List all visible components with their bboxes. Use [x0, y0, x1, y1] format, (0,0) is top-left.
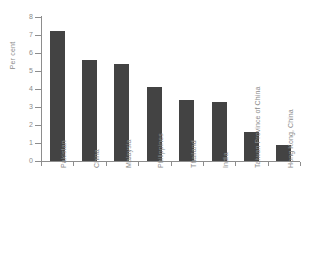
x-tick-mark [171, 162, 172, 166]
x-tick-mark [235, 162, 236, 166]
y-tick-label: 7 [20, 31, 33, 38]
x-tick-label: India [222, 152, 229, 168]
x-tick-mark [106, 162, 107, 166]
x-tick-mark [300, 162, 301, 166]
x-tick-label: Malaysia [125, 140, 132, 168]
y-axis-line [41, 16, 42, 162]
y-tick-label: 5 [20, 67, 33, 74]
y-tick-label: 1 [20, 139, 33, 146]
y-axis-title: Per cent [9, 21, 16, 91]
y-tick-label: 3 [20, 103, 33, 110]
x-tick-mark [138, 162, 139, 166]
y-tick-mark [35, 143, 41, 144]
y-tick-mark [35, 89, 41, 90]
x-tick-mark [73, 162, 74, 166]
y-tick-mark [35, 17, 41, 18]
x-tick-mark [41, 162, 42, 166]
y-tick-mark [35, 71, 41, 72]
bar [82, 60, 97, 161]
x-tick-label: Thailand [190, 140, 197, 168]
x-tick-label: Philippines [157, 133, 164, 168]
x-tick-label: China [93, 149, 100, 168]
y-tick-label: 6 [20, 49, 33, 56]
y-tick-mark [35, 107, 41, 108]
bar-chart: Per cent 012345678 PakistanChinaMalaysia… [0, 0, 311, 277]
x-tick-mark [268, 162, 269, 166]
y-tick-label: 4 [20, 85, 33, 92]
y-tick-mark [35, 35, 41, 36]
x-tick-mark [203, 162, 204, 166]
x-tick-label: Taiwan Province of China [254, 87, 261, 168]
y-tick-mark [35, 125, 41, 126]
y-tick-label: 8 [20, 13, 33, 20]
y-tick-label: 2 [20, 121, 33, 128]
y-tick-mark [35, 53, 41, 54]
x-tick-label: Hong Kong, China [287, 109, 294, 168]
y-tick-label: 0 [20, 157, 33, 164]
x-tick-label: Pakistan [60, 140, 67, 168]
